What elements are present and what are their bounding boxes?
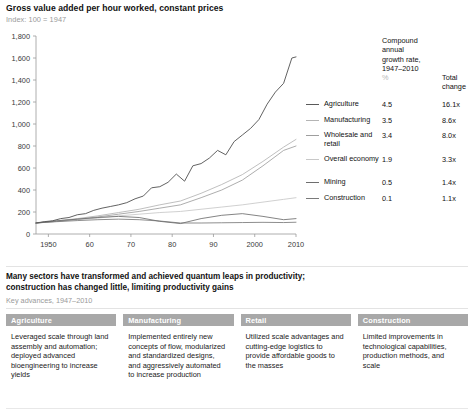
- panel-body-text: Utilized scale advantages and cutting-ed…: [241, 326, 351, 370]
- x-axis-tick-label: 2000: [247, 240, 263, 249]
- series-line-agriculture: [36, 57, 296, 223]
- chart-section-divider: [6, 266, 468, 267]
- legend-total-value: 8.6x: [442, 116, 456, 125]
- legend-row: Wholesale and retail3.48.0x: [306, 131, 474, 148]
- sector-panel-manufacturing: ManufacturingImplemented entirely new co…: [123, 314, 233, 412]
- legend-row: Mining0.51.4x: [306, 178, 474, 187]
- sector-panel-agriculture: AgricultureLeveraged scale through land …: [6, 314, 116, 412]
- legend-cagr-value: 3.4: [382, 131, 392, 140]
- y-axis-tick-label: 0: [26, 230, 30, 239]
- x-axis-tick-label: 2010: [288, 240, 304, 249]
- panels-bottom-divider: [6, 408, 468, 409]
- legend-cagr-value: 1.9: [382, 155, 392, 164]
- legend-row: Manufacturing3.58.6x: [306, 116, 474, 125]
- y-axis-tick-label: 200: [18, 208, 30, 217]
- y-axis-tick-label: 1,400: [12, 76, 31, 85]
- legend-swatch-manufacturing: [306, 120, 319, 121]
- legend-cagr-value: 0.5: [382, 178, 392, 187]
- y-axis-tick-label: 600: [18, 164, 30, 173]
- panel-header-label: Agriculture: [11, 316, 52, 325]
- panel-header: Construction: [358, 314, 468, 326]
- y-axis-tick-label: 1,200: [12, 98, 31, 107]
- lower-headline: Many sectors have transformed and achiev…: [6, 272, 436, 293]
- panel-body-text: Leveraged scale through land assembly an…: [6, 326, 116, 380]
- legend-cagr-header: Compound annual growth rate, 1947–2010 %: [382, 36, 442, 82]
- line-chart-svg: 02004006008001,0001,2001,4001,6001,80019…: [0, 30, 306, 265]
- legend-swatch-overall-economy: [306, 159, 319, 160]
- legend-row-list: Agriculture4.516.1xManufacturing3.58.6xW…: [306, 100, 474, 209]
- panel-header: Manufacturing: [123, 314, 233, 326]
- legend-total-value: 8.0x: [442, 131, 456, 140]
- legend-row: Construction0.11.1x: [306, 194, 474, 203]
- legend-row: Agriculture4.516.1x: [306, 100, 474, 109]
- panel-body-text: Implemented entirely new concepts of flo…: [123, 326, 233, 380]
- legend-total-line1: Total: [442, 73, 474, 82]
- x-axis-tick-label: 90: [209, 240, 217, 249]
- lower-headline-line1: Many sectors have transformed and achiev…: [6, 272, 436, 283]
- x-axis-tick-label: 1950: [40, 240, 56, 249]
- legend-swatch-mining: [306, 182, 319, 183]
- legend-total-value: 3.3x: [442, 155, 456, 164]
- legend-row: Overall economy1.93.3x: [306, 155, 474, 172]
- legend-cagr-value: 4.5: [382, 100, 392, 109]
- panel-header-label: Manufacturing: [128, 316, 181, 325]
- legend-cagr-line3: growth rate,: [382, 55, 442, 64]
- chart-title: Gross value added per hour worked, const…: [6, 3, 223, 13]
- legend-label: Wholesale and retail: [324, 131, 382, 148]
- legend-swatch-wholesale-and-retail: [306, 135, 319, 136]
- panels-top-divider: [6, 308, 468, 309]
- legend-swatch-agriculture: [306, 104, 319, 105]
- chart-legend: Compound annual growth rate, 1947–2010 %…: [306, 36, 474, 98]
- sector-panel-construction: ConstructionLimited improvements in tech…: [358, 314, 468, 412]
- x-axis-tick-label: 80: [168, 240, 176, 249]
- legend-header: Compound annual growth rate, 1947–2010 %…: [306, 36, 474, 98]
- legend-total-value: 1.1x: [442, 194, 456, 203]
- legend-total-line2: change: [442, 82, 474, 91]
- legend-cagr-line4: 1947–2010: [382, 64, 442, 73]
- legend-label: Overall economy: [324, 155, 382, 164]
- legend-swatch-construction: [306, 198, 319, 199]
- lower-subtitle: Key advances, 1947–2010: [6, 296, 92, 305]
- chart-subtitle: Index: 100 = 1947: [6, 15, 66, 24]
- legend-label: Manufacturing: [324, 116, 382, 125]
- sector-panels: AgricultureLeveraged scale through land …: [6, 314, 468, 412]
- sector-panel-retail: RetailUtilized scale advantages and cutt…: [241, 314, 351, 412]
- y-axis-tick-label: 1,000: [12, 120, 31, 129]
- legend-label: Agriculture: [324, 100, 382, 109]
- y-axis-tick-label: 1,600: [12, 54, 31, 63]
- series-line-wholesale-and-retail: [36, 146, 296, 223]
- panel-header: Agriculture: [6, 314, 116, 326]
- x-axis-tick-label: 70: [127, 240, 135, 249]
- legend-label: Construction: [324, 194, 382, 203]
- panel-header-label: Retail: [246, 316, 267, 325]
- lower-headline-line2: construction has changed little, limitin…: [6, 283, 436, 294]
- legend-total-value: 16.1x: [442, 100, 460, 109]
- series-line-manufacturing: [36, 139, 296, 223]
- legend-cagr-unit: %: [382, 73, 442, 82]
- x-axis-tick-label: 60: [86, 240, 94, 249]
- legend-total-value: 1.4x: [442, 178, 456, 187]
- legend-total-header: Total change: [442, 73, 474, 92]
- panel-body-text: Limited improvements in technological ca…: [358, 326, 468, 370]
- legend-cagr-value: 3.5: [382, 116, 392, 125]
- panel-header-label: Construction: [363, 316, 411, 325]
- panel-header: Retail: [241, 314, 351, 326]
- legend-cagr-line2: annual: [382, 45, 442, 54]
- legend-cagr-line1: Compound: [382, 36, 442, 45]
- y-axis-tick-label: 1,800: [12, 32, 31, 41]
- legend-cagr-value: 0.1: [382, 194, 392, 203]
- exhibit-root: Gross value added per hour worked, const…: [0, 0, 474, 417]
- y-axis-tick-label: 800: [18, 142, 30, 151]
- legend-label: Mining: [324, 178, 382, 187]
- y-axis-tick-label: 400: [18, 186, 30, 195]
